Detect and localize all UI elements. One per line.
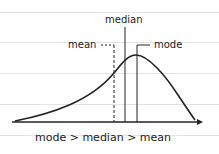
median-label: median [105, 15, 143, 25]
x-axis [12, 119, 203, 125]
axis-arrow-icon [197, 119, 203, 125]
relation-caption: mode > median > mean [35, 132, 171, 143]
mean-label: mean [68, 40, 96, 50]
distribution-curve [15, 55, 195, 121]
mode-label: mode [154, 40, 182, 50]
